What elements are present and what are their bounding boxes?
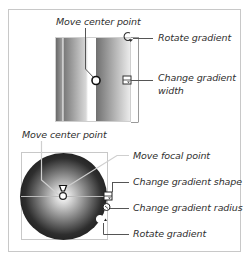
linear-change-width-label-line1: Change gradient	[158, 72, 236, 83]
linear-rotate-gradient-label: Rotate gradient	[158, 32, 231, 43]
radial-move-focal-point-label: Move focal point	[133, 150, 210, 161]
linear-move-center-point-label: Move center point	[56, 16, 141, 27]
radial-change-radius-label: Change gradient radius	[133, 202, 243, 213]
radial-gradient-preview	[20, 153, 107, 240]
linear-gradient-preview	[55, 37, 131, 122]
radial-move-center-point-label: Move center point	[22, 129, 107, 140]
radial-change-shape-label: Change gradient shape	[133, 176, 242, 187]
linear-change-width-label-line2: width	[158, 85, 184, 96]
radial-rotate-gradient-label: Rotate gradient	[133, 228, 206, 239]
